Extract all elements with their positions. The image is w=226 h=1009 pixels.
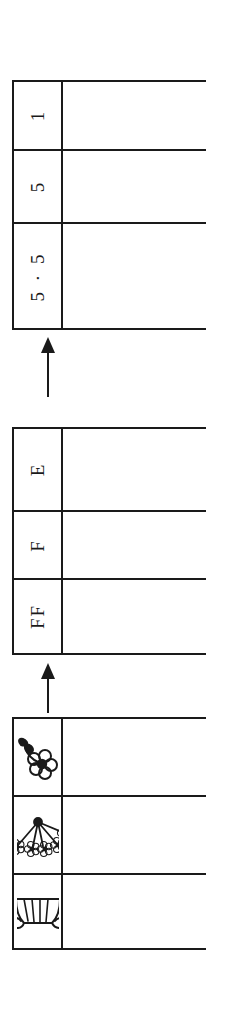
- cell-label: 5: [14, 151, 61, 222]
- cell-blank: [63, 580, 206, 653]
- letter-label-f: F: [28, 539, 47, 552]
- arrow-up-pictures-to-letters: [41, 663, 55, 713]
- cell-blank: [63, 151, 206, 222]
- cell-blank: [63, 719, 206, 795]
- cell-label: [14, 797, 61, 873]
- cell-blank: [63, 797, 206, 873]
- flower-sheaf-icon: [17, 876, 59, 948]
- table-row: FF: [12, 578, 206, 655]
- cell-label: F: [14, 512, 61, 578]
- letter-notation-table: E F FF: [12, 427, 206, 655]
- numeric-label-5-dot-5: 5 · 5: [28, 251, 47, 301]
- numeric-label-1: 1: [28, 110, 47, 122]
- cell-label: [14, 719, 61, 795]
- table-row: 1: [12, 80, 206, 149]
- numeric-label-5: 5: [28, 181, 47, 193]
- cell-label: E: [14, 429, 61, 510]
- table-row: [12, 717, 206, 795]
- table-row: [12, 873, 206, 950]
- cell-label: [14, 875, 61, 948]
- table-row: 5: [12, 149, 206, 222]
- table-row: [12, 795, 206, 873]
- cell-label: 1: [14, 82, 61, 149]
- cell-blank: [63, 512, 206, 578]
- arrow-shaft: [47, 349, 49, 397]
- diagram-canvas: 1 5 5 · 5: [0, 0, 226, 1009]
- cell-label: 5 · 5: [14, 224, 61, 328]
- cell-blank: [63, 875, 206, 948]
- cell-blank: [63, 82, 206, 149]
- cell-blank: [63, 429, 206, 510]
- flower-picture-table: [12, 717, 206, 950]
- cell-blank: [63, 224, 206, 328]
- flower-bouquet-icon: [17, 799, 59, 871]
- numeric-notation-table: 1 5 5 · 5: [12, 80, 206, 330]
- letter-label-e: E: [28, 463, 47, 477]
- single-flower-icon: [17, 722, 59, 792]
- table-row: E: [12, 427, 206, 510]
- arrow-up-letters-to-numbers: [41, 337, 55, 397]
- cell-label: FF: [14, 580, 61, 653]
- table-row: F: [12, 510, 206, 578]
- table-row: 5 · 5: [12, 222, 206, 330]
- letter-label-ff: FF: [28, 604, 47, 629]
- arrow-shaft: [47, 675, 49, 713]
